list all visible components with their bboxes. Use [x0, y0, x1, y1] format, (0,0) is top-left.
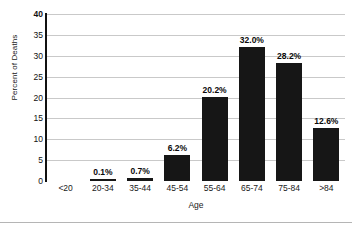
- y-tick-label: 25: [3, 73, 43, 82]
- y-tick-label: 40: [3, 10, 43, 19]
- bar: [164, 155, 190, 181]
- bar: [90, 179, 116, 182]
- plot-area: 0.1%0.7%6.2%20.2%32.0%28.2%12.6%: [47, 14, 345, 181]
- bar-value-label: 20.2%: [191, 86, 239, 95]
- x-axis-title: Age: [47, 200, 345, 210]
- bar-value-label: 32.0%: [228, 36, 276, 45]
- bar-value-label: 28.2%: [265, 52, 313, 61]
- bar-value-label: 12.6%: [302, 117, 350, 126]
- y-tick-label: 0: [3, 177, 43, 186]
- bar: [127, 178, 153, 181]
- y-tick-label: 10: [3, 135, 43, 144]
- bottom-divider: [0, 222, 352, 223]
- y-tick-label: 15: [3, 114, 43, 123]
- bar-value-label: 0.7%: [116, 167, 164, 176]
- bar: [276, 63, 302, 181]
- y-tick-label: 35: [3, 31, 43, 40]
- bar-value-label: 6.2%: [153, 144, 201, 153]
- y-tick-label: 5: [3, 156, 43, 165]
- bar: [202, 97, 228, 181]
- y-tick-label: 20: [3, 94, 43, 103]
- bar-chart: Percent of Deaths 4035302520151050 0.1%0…: [0, 0, 352, 237]
- bar: [313, 128, 339, 181]
- bar: [239, 47, 265, 181]
- x-tick-label: >84: [300, 184, 352, 193]
- gridline: [47, 14, 345, 15]
- gridline: [47, 35, 345, 36]
- y-tick-label: 30: [3, 52, 43, 61]
- y-axis-tick-labels: 4035302520151050: [0, 0, 43, 237]
